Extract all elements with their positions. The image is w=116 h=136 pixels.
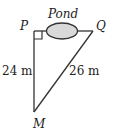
right-angle-marker <box>34 31 42 39</box>
pond-label: Pond <box>47 7 79 21</box>
side-pm-length: 24 m <box>2 64 33 78</box>
side-qm-length: 26 m <box>69 64 100 78</box>
point-p-label: P <box>19 19 29 33</box>
pond-ellipse <box>47 23 78 39</box>
point-q-label: Q <box>96 19 106 33</box>
triangle-diagram: Pond P Q M 24 m 26 m <box>0 0 116 136</box>
point-m-label: M <box>32 117 46 131</box>
